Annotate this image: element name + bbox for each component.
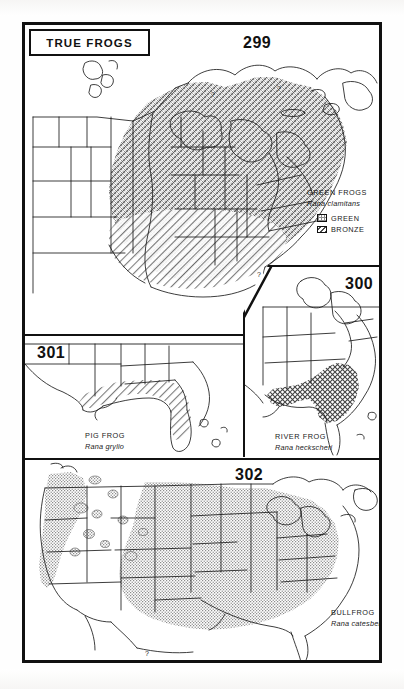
map-302-graphic: ? — [25, 460, 379, 660]
species-caption-300: RIVER FROG Rana heckscheri — [275, 432, 332, 452]
species-caption-299: GREEN FROGS Rana clamitans — [307, 188, 367, 208]
legend-swatch-stipple — [317, 214, 327, 222]
species-common-name: RIVER FROG — [275, 432, 332, 441]
legend-label-bronze: BRONZE — [331, 225, 364, 234]
plate-frame: ? ? ? 299 GREEN FROGS Rana clamitans GRE… — [22, 22, 382, 663]
query-mark: ? — [145, 650, 149, 657]
scan-gradient-top — [0, 0, 404, 16]
legend-item-bronze[interactable]: BRONZE — [317, 225, 364, 234]
species-scientific-name: Rana grylio — [85, 442, 125, 451]
legend-label-green: GREEN — [331, 214, 359, 223]
field-guide-page: ? ? ? 299 GREEN FROGS Rana clamitans GRE… — [0, 0, 404, 689]
map-panel-300[interactable]: 300 RIVER FROG Rana heckscheri — [243, 265, 379, 457]
map-number-301: 301 — [37, 344, 65, 362]
map-number-299: 299 — [243, 34, 271, 52]
scan-gradient-bottom — [0, 669, 404, 689]
plate-title: TRUE FROGS — [46, 37, 132, 49]
species-scientific-name: Rana clamitans — [307, 199, 367, 208]
query-mark: ? — [277, 85, 281, 92]
query-mark: ? — [257, 271, 261, 278]
map-number-300: 300 — [345, 275, 373, 293]
map-panel-301[interactable]: 301 PIG FROG Rana grylio — [25, 334, 243, 457]
legend-swatch-hatch — [317, 226, 327, 234]
map-number-302: 302 — [235, 466, 263, 484]
species-caption-301: PIG FROG Rana grylio — [85, 431, 125, 451]
map-300-graphic — [245, 267, 379, 457]
species-scientific-name: Rana catesbeiana — [331, 619, 379, 628]
species-caption-302: BULLFROG Rana catesbeiana — [331, 608, 379, 628]
species-common-name: GREEN FROGS — [307, 188, 367, 197]
query-mark: ? — [211, 91, 215, 98]
map-legend: GREEN BRONZE — [317, 211, 364, 234]
species-scientific-name: Rana heckscheri — [275, 443, 332, 452]
map-panel-302[interactable]: ? 302 BULLFROG Rana catesbeiana — [25, 458, 379, 660]
legend-item-green[interactable]: GREEN — [317, 214, 364, 223]
plate-title-box: TRUE FROGS — [29, 29, 150, 56]
species-common-name: PIG FROG — [85, 431, 125, 440]
species-common-name: BULLFROG — [331, 608, 379, 617]
